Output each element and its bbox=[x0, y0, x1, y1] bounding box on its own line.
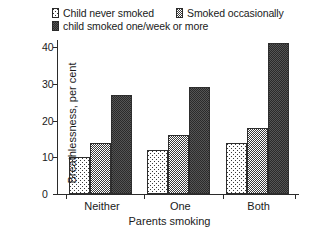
bar-both-series-2 bbox=[247, 128, 268, 194]
x-axis-line bbox=[57, 194, 299, 195]
y-axis-tick-label: 0 bbox=[42, 189, 47, 200]
chart-legend: Child never smoked Smoked occasionally c… bbox=[52, 6, 304, 32]
y-axis-tick bbox=[53, 194, 58, 195]
y-axis-tick-label: 30 bbox=[42, 79, 47, 90]
bar-one-series-2 bbox=[168, 135, 189, 194]
legend-label-child-smoked-weekly: child smoked one/week or more bbox=[63, 20, 208, 32]
legend-label-child-never-smoked: Child never smoked bbox=[63, 7, 154, 19]
legend-swatch-child-never-smoked bbox=[52, 8, 59, 18]
y-axis-tick-label: 40 bbox=[42, 42, 47, 53]
bar-neither-series-3 bbox=[111, 95, 132, 194]
legend-row-1: Child never smoked Smoked occasionally bbox=[52, 6, 304, 19]
legend-swatch-child-smoked-weekly bbox=[52, 21, 59, 31]
legend-entry-child-never-smoked: Child never smoked bbox=[52, 7, 154, 19]
legend-entry-smoked-occasionally: Smoked occasionally bbox=[176, 7, 284, 19]
legend-label-smoked-occasionally: Smoked occasionally bbox=[187, 7, 284, 19]
y-axis-tick-label: 10 bbox=[42, 152, 47, 163]
x-axis-group-label-one: One bbox=[170, 200, 191, 212]
legend-entry-child-smoked-weekly: child smoked one/week or more bbox=[52, 20, 208, 32]
y-axis-tick-label: 20 bbox=[42, 115, 47, 126]
y-axis-title: Breathlessness, per cent bbox=[66, 43, 78, 203]
legend-row-2: child smoked one/week or more bbox=[52, 19, 304, 32]
bar-neither-series-2 bbox=[90, 143, 111, 194]
x-axis-group-label-neither: Neither bbox=[84, 200, 119, 212]
bar-both-series-1 bbox=[226, 143, 247, 194]
bar-both-series-3 bbox=[268, 43, 289, 194]
plot-area: 010203040 bbox=[57, 40, 299, 195]
bar-one-series-3 bbox=[189, 87, 210, 194]
bar-one-series-1 bbox=[147, 150, 168, 194]
x-axis-tick bbox=[223, 194, 224, 199]
legend-swatch-smoked-occasionally bbox=[176, 8, 183, 18]
x-axis-group-label-both: Both bbox=[247, 200, 270, 212]
x-axis-title-text: Parents smoking bbox=[99, 215, 211, 227]
x-axis-title: Parents smoking bbox=[0, 215, 309, 227]
bar-chart: Child never smoked Smoked occasionally c… bbox=[0, 0, 309, 232]
x-axis-tick bbox=[295, 194, 296, 199]
y-axis-line bbox=[57, 40, 58, 195]
x-axis-tick bbox=[144, 194, 145, 199]
